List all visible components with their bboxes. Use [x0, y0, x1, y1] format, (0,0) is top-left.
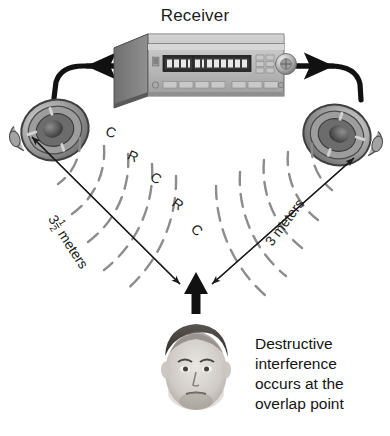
right-speaker-cable: [294, 66, 361, 100]
left-speaker: [2, 91, 97, 173]
overlap-point-arrow: [184, 272, 208, 314]
caption-line-2: interference: [255, 354, 387, 374]
right-wavefronts: [216, 144, 332, 296]
right-speaker: [295, 96, 390, 178]
caption-line-1: Destructive: [255, 334, 387, 354]
caption-line-4: overlap point: [255, 394, 387, 414]
stereo-receiver: [114, 34, 297, 108]
sound-interference-diagram: Receiver 312 meters 3 meters C R C R C D…: [0, 0, 390, 436]
caption-line-3: occurs at the: [255, 374, 387, 394]
listener-head-illustration: [161, 324, 231, 410]
receiver-title: Receiver: [0, 6, 390, 26]
dimension-line-left: [32, 137, 180, 284]
destructive-interference-caption: Destructive interference occurs at the o…: [255, 334, 387, 414]
